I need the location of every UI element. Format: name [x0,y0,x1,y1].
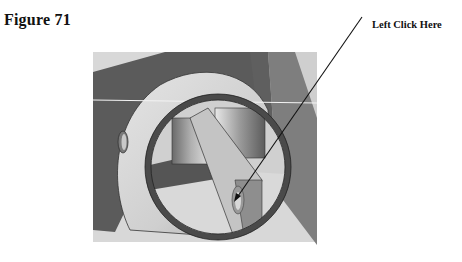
cad-model-figure [0,0,462,262]
